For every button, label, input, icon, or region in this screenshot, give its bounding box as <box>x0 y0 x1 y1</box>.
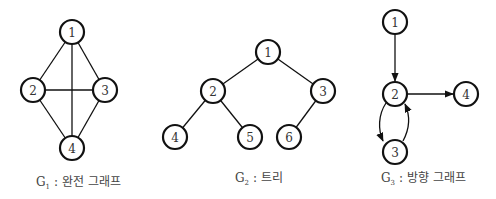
caption-separator: : <box>249 171 261 185</box>
caption-g1: G1 : 완전 그래프 <box>36 172 121 191</box>
caption-g2: G2 : 트리 <box>235 168 283 187</box>
svg-text:5: 5 <box>246 131 254 145</box>
node-4: 4 <box>60 136 84 160</box>
node-1: 1 <box>60 20 84 44</box>
svg-text:3: 3 <box>391 146 399 160</box>
node-3: 3 <box>93 78 117 102</box>
node-3: 3 <box>383 140 407 164</box>
node-2: 2 <box>383 82 407 106</box>
caption-letter: G <box>36 175 46 189</box>
svg-text:1: 1 <box>391 16 399 30</box>
svg-text:2: 2 <box>29 84 37 98</box>
svg-text:1: 1 <box>68 26 76 40</box>
node-5: 5 <box>238 125 262 149</box>
svg-text:2: 2 <box>209 85 217 99</box>
svg-text:4: 4 <box>68 142 76 156</box>
svg-text:1: 1 <box>264 46 272 60</box>
caption-label: 방향 그래프 <box>407 171 466 185</box>
node-2: 2 <box>21 78 45 102</box>
arrow-edge-3-to-2 <box>403 104 409 141</box>
caption-letter: G <box>381 171 391 185</box>
caption-separator: : <box>50 175 62 189</box>
graph-g2-nodes: 1 2 3 4 5 6 <box>163 40 335 149</box>
node-4: 4 <box>163 125 187 149</box>
node-1: 1 <box>383 10 407 34</box>
node-2: 2 <box>201 79 225 103</box>
caption-label: 완전 그래프 <box>62 175 121 189</box>
node-4: 4 <box>454 82 478 106</box>
node-1: 1 <box>256 40 280 64</box>
svg-text:4: 4 <box>171 131 179 145</box>
caption-g3: G3 : 방향 그래프 <box>381 168 466 187</box>
node-6: 6 <box>277 125 301 149</box>
svg-text:4: 4 <box>462 88 470 102</box>
caption-label: 트리 <box>261 171 283 185</box>
caption-separator: : <box>395 171 407 185</box>
graph-g3-nodes: 1 2 3 4 <box>383 10 478 164</box>
svg-text:2: 2 <box>391 88 399 102</box>
svg-text:6: 6 <box>285 131 293 145</box>
caption-letter: G <box>235 171 245 185</box>
svg-text:3: 3 <box>101 84 109 98</box>
arrow-edge-2-to-3 <box>380 103 386 141</box>
svg-text:3: 3 <box>319 85 327 99</box>
node-3: 3 <box>311 79 335 103</box>
